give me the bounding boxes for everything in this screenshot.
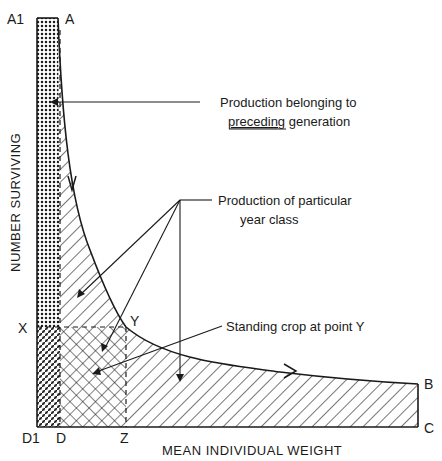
point-label-z: Z: [120, 430, 129, 446]
point-label-c: C: [424, 420, 434, 436]
annotation-preceding-line2: preceding generation: [228, 114, 350, 129]
preceding-generation-lower-area: [37, 327, 60, 427]
point-label-a1: A1: [7, 11, 24, 27]
annotation-preceding-rest: generation: [285, 114, 350, 129]
annotation-year-class-line1: Production of particular: [218, 193, 352, 208]
y-axis-label: NUMBER SURVIVING: [8, 133, 23, 272]
point-label-y: Y: [130, 313, 140, 329]
annotation-year-class-line2: year class: [240, 212, 299, 227]
point-label-d1: D1: [22, 430, 40, 446]
preceding-generation-area: [37, 18, 60, 327]
point-label-d: D: [56, 430, 66, 446]
standing-crop-area: [58, 327, 126, 427]
production-diagram: A1 A X Y D1 D Z B C NUMBER SURVIVING MEA…: [0, 0, 442, 461]
x-axis-label: MEAN INDIVIDUAL WEIGHT: [162, 443, 342, 458]
annotation-preceding-word: preceding: [228, 114, 285, 129]
annotation-standing-crop: Standing crop at point Y: [226, 319, 365, 334]
leader-line-year-class-1: [80, 200, 180, 295]
point-label-b: B: [424, 376, 433, 392]
annotation-preceding-line1: Production belonging to: [220, 95, 357, 110]
leader-line-year-class-2: [105, 200, 180, 348]
point-label-a: A: [65, 11, 75, 27]
point-label-x: X: [18, 320, 28, 336]
